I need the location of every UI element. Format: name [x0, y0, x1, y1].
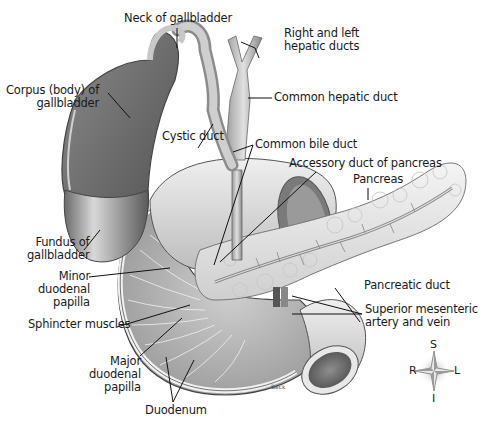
label-right-left-hepatic-ducts: Right and left hepatic ducts — [284, 27, 359, 53]
label-pancreatic-duct: Pancreatic duct — [364, 279, 450, 292]
label-major-duodenal-papilla: Major duodenal papilla — [89, 355, 141, 394]
anatomy-figure: Neck of gallbladder Right and left hepat… — [0, 0, 483, 424]
mesenteric-vessels — [273, 287, 280, 307]
label-fundus-of-gallbladder: Fundus of gallbladder — [27, 236, 89, 262]
anatomy-illustration — [0, 0, 483, 424]
compass-superior: S — [430, 338, 437, 351]
label-neck-of-gallbladder: Neck of gallbladder — [124, 12, 232, 25]
compass-right: R — [409, 364, 417, 377]
compass-left: L — [454, 364, 460, 377]
label-common-bile-duct: Common bile duct — [255, 138, 357, 151]
compass-rose — [414, 351, 454, 391]
compass-inferior: I — [432, 392, 435, 405]
artist-signature: Beck — [271, 383, 286, 390]
label-pancreas: Pancreas — [353, 173, 403, 186]
label-duodenum: Duodenum — [145, 404, 207, 417]
label-corpus-of-gallbladder: Corpus (body) of gallbladder — [6, 84, 99, 110]
label-sphincter-muscles: Sphincter muscles — [28, 318, 130, 331]
label-minor-duodenal-papilla: Minor duodenal papilla — [38, 270, 90, 309]
label-accessory-duct-of-pancreas: Accessory duct of pancreas — [289, 157, 442, 170]
label-common-hepatic-duct: Common hepatic duct — [274, 91, 397, 104]
label-superior-mesenteric-artery-vein: Superior mesenteric artery and vein — [365, 303, 478, 329]
label-cystic-duct: Cystic duct — [162, 130, 224, 143]
